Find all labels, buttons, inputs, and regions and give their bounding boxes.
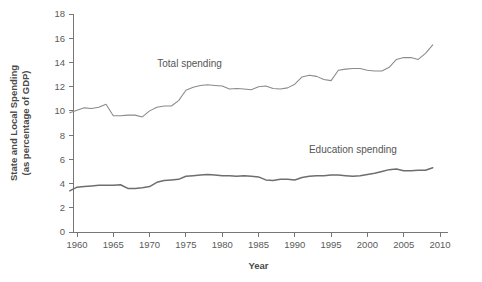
x-tick-label: 1990 [284,239,305,250]
x-tick-label: 1980 [212,239,233,250]
x-axis-title: Year [248,260,268,271]
x-axis-tick-labels: 1960196519701975198019851990199520002005… [66,239,450,250]
y-tick-label: 4 [60,178,65,189]
y-tick-label: 8 [60,130,65,141]
axes [73,14,448,232]
y-axis-title-line1: State and Local Spending [8,65,19,181]
x-tick-label: 1995 [321,239,342,250]
y-axis-title-line2: (as percentage of GDP) [20,70,31,175]
x-tick-label: 2010 [429,239,450,250]
y-tick-label: 14 [54,57,65,68]
y-axis-tick-labels: 024681012141618 [54,8,65,237]
y-tick-label: 0 [60,226,65,237]
y-tick-label: 12 [54,81,65,92]
chart-figure: 024681012141618 196019651970197519801985… [0,0,482,282]
y-tick-label: 2 [60,202,65,213]
y-tick-label: 6 [60,154,65,165]
y-tick-label: 18 [54,8,65,19]
x-tick-label: 1970 [139,239,160,250]
series-annotations: Total spendingEducation spending [157,58,397,155]
y-tick-label: 16 [54,33,65,44]
chart-plot-area: 024681012141618 196019651970197519801985… [0,0,482,282]
data-series [70,45,433,191]
y-tick-label: 10 [54,105,65,116]
tick-marks [69,14,440,237]
series-label-total-spending: Total spending [157,58,222,69]
series-line-total-spending [70,45,433,117]
series-line-education-spending [70,168,433,191]
x-tick-label: 2005 [393,239,414,250]
x-tick-label: 1975 [175,239,196,250]
x-tick-label: 2000 [357,239,378,250]
x-tick-label: 1965 [103,239,124,250]
x-tick-label: 1985 [248,239,269,250]
series-label-education-spending: Education spending [309,144,397,155]
x-tick-label: 1960 [66,239,87,250]
